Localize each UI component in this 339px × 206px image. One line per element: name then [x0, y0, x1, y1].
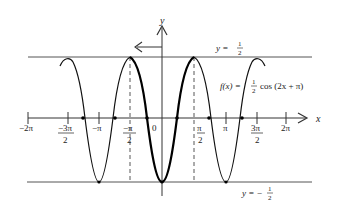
svg-text:2: 2 [238, 49, 242, 57]
svg-text:−π: −π [123, 123, 133, 133]
cosine-graph: y x 0 −2π −3π 2 −π −π 2 π 2 π 3π 2 2π y … [0, 0, 339, 206]
tick-label-neg-pi: −π [92, 123, 102, 133]
lower-line-label: y = − 1 2 [241, 185, 273, 202]
svg-text:f(x) =: f(x) = [220, 81, 241, 91]
tick-label-neg-2pi: −2π [19, 123, 34, 133]
svg-text:π: π [197, 123, 202, 133]
svg-text:2: 2 [127, 135, 132, 145]
svg-text:2: 2 [268, 194, 272, 202]
svg-text:2: 2 [252, 87, 256, 95]
svg-text:1: 1 [238, 40, 242, 48]
tick-label-neg-pi-2: −π 2 [123, 123, 136, 145]
tick-label-2pi: 2π [281, 123, 291, 133]
tick-label-pi-2: π 2 [197, 123, 205, 145]
svg-text:y =: y = [215, 43, 228, 53]
svg-text:2: 2 [198, 135, 203, 145]
svg-text:−3π: −3π [58, 123, 73, 133]
x-axis-label: x [315, 113, 321, 124]
tick-label-neg-3pi-2: −3π 2 [58, 123, 74, 145]
function-label: f(x) = 1 2 cos (2x + π) [220, 78, 303, 95]
origin-label: 0 [152, 123, 157, 133]
upper-line-label: y = 1 2 [215, 40, 243, 57]
svg-text:3π: 3π [251, 123, 261, 133]
svg-text:2: 2 [255, 135, 260, 145]
svg-text:cos (2x + π): cos (2x + π) [260, 81, 303, 91]
svg-text:1: 1 [252, 78, 256, 86]
tick-label-pi: π [223, 123, 228, 133]
svg-text:y = −: y = − [241, 188, 263, 198]
tick-label-3pi-2: 3π 2 [251, 123, 263, 145]
svg-text:1: 1 [268, 185, 272, 193]
y-axis-label: y [159, 15, 165, 26]
svg-text:2: 2 [63, 135, 68, 145]
